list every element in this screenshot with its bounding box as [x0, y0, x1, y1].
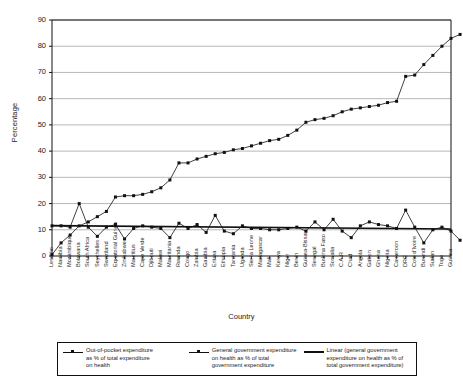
data-point	[168, 178, 171, 181]
data-point	[150, 190, 153, 193]
data-point	[422, 241, 425, 244]
legend-item: Linear (general governmentexpenditure on…	[304, 347, 412, 372]
legend-item: General government expenditureon health …	[189, 347, 304, 372]
legend-label-line: government expenditure	[212, 362, 297, 370]
data-point	[332, 114, 335, 117]
data-point	[132, 194, 135, 197]
chart-figure: Percentage Country 0102030405060708090 L…	[0, 0, 463, 388]
data-point	[241, 147, 244, 150]
data-point	[304, 230, 307, 233]
series-line-1	[52, 204, 460, 243]
data-point	[214, 214, 217, 217]
data-point	[277, 228, 280, 231]
data-point	[313, 220, 316, 223]
data-point	[114, 196, 117, 199]
data-point	[359, 106, 362, 109]
axes	[52, 20, 451, 256]
data-point	[132, 227, 135, 230]
data-point	[450, 230, 453, 233]
data-point	[69, 234, 72, 237]
gridlines	[52, 20, 451, 230]
legend-label-line: on health	[86, 362, 153, 370]
legend-label-line: total government expenditure)	[327, 362, 404, 370]
data-point	[205, 155, 208, 158]
data-point	[105, 210, 108, 213]
legend-marker-line-icon	[63, 348, 83, 356]
data-point	[159, 186, 162, 189]
data-point	[232, 232, 235, 235]
data-point	[395, 100, 398, 103]
data-point	[141, 193, 144, 196]
legend-label: Out-of-pocket expenditureas % of total e…	[86, 347, 153, 370]
data-point	[214, 152, 217, 155]
data-point	[123, 237, 126, 240]
legend-label-line: General government expenditure	[212, 347, 297, 355]
series-line-0	[52, 34, 460, 254]
data-point	[205, 231, 208, 234]
chart-legend: Out-of-pocket expenditureas % of total e…	[57, 342, 417, 376]
data-point	[350, 236, 353, 239]
data-point	[187, 161, 190, 164]
legend-marker-line-icon	[189, 348, 209, 356]
data-point	[323, 117, 326, 120]
data-point	[386, 101, 389, 104]
legend-label-line: on health as % of total	[212, 355, 297, 363]
legend-label-line: as % of total expenditure	[86, 355, 153, 363]
data-point	[359, 224, 362, 227]
data-point	[123, 194, 126, 197]
data-point	[368, 105, 371, 108]
data-point	[332, 218, 335, 221]
data-point	[250, 144, 253, 147]
axis-ticks	[49, 20, 451, 259]
data-point	[268, 228, 271, 231]
data-point	[168, 236, 171, 239]
data-point	[313, 118, 316, 121]
data-point	[177, 161, 180, 164]
legend-label: Linear (general governmentexpenditure on…	[327, 347, 404, 370]
legend-label-line: expenditure on health as % of	[327, 355, 404, 363]
legend-label: General government expenditureon health …	[212, 347, 297, 370]
data-point	[377, 223, 380, 226]
data-point	[459, 239, 462, 242]
data-point	[295, 129, 298, 132]
data-point	[223, 230, 226, 233]
data-point	[96, 215, 99, 218]
data-point	[350, 108, 353, 111]
data-point	[78, 202, 81, 205]
data-point	[286, 134, 289, 137]
data-point	[341, 110, 344, 113]
data-point	[304, 121, 307, 124]
data-point	[440, 45, 443, 48]
data-point	[259, 142, 262, 145]
data-point	[87, 220, 90, 223]
data-point	[96, 235, 99, 238]
legend-label-line: Linear (general government	[327, 347, 404, 355]
legend-item: Out-of-pocket expenditureas % of total e…	[63, 347, 189, 372]
data-point	[196, 223, 199, 226]
data-point	[404, 75, 407, 78]
data-point	[341, 230, 344, 233]
data-point	[386, 224, 389, 227]
data-point	[232, 148, 235, 151]
data-point	[196, 157, 199, 160]
data-point	[177, 222, 180, 225]
legend-label-line: Out-of-pocket expenditure	[86, 347, 153, 355]
data-point	[159, 227, 162, 230]
data-point	[459, 33, 462, 36]
data-point	[450, 37, 453, 40]
legend-line-icon	[304, 348, 324, 356]
data-series	[51, 33, 462, 256]
data-point	[422, 63, 425, 66]
data-point	[413, 74, 416, 77]
data-point	[223, 151, 226, 154]
data-point	[277, 138, 280, 141]
data-point	[51, 253, 54, 256]
data-point	[368, 220, 371, 223]
plot-area	[0, 0, 463, 388]
data-point	[377, 104, 380, 107]
data-point	[404, 209, 407, 212]
data-point	[431, 54, 434, 57]
data-point	[268, 139, 271, 142]
data-point	[60, 241, 63, 244]
